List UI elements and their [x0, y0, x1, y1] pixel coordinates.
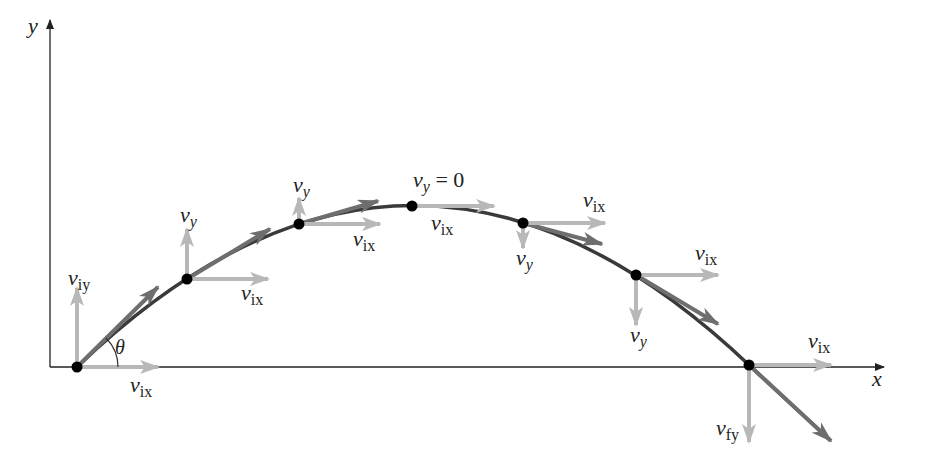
point-p5 [631, 270, 642, 281]
point-p1 [182, 274, 193, 285]
point-p4 [518, 218, 529, 229]
axes: y x [26, 13, 884, 391]
label-vy-p5: vy [630, 322, 648, 351]
label-vix-landing: vix [808, 328, 830, 356]
label-vy-apex: vy = 0 [413, 167, 464, 196]
velocity-vector-p1 [187, 229, 270, 279]
velocity-vectors [77, 201, 831, 441]
velocity-vector-p2 [299, 201, 378, 224]
velocity-vector-p5 [636, 275, 718, 324]
projectile-diagram: y x θ [0, 0, 936, 469]
point-launch [72, 362, 83, 373]
label-vfy-landing: vfy [716, 415, 739, 444]
theta-label: θ [115, 336, 125, 358]
label-vix-p1: vix [241, 280, 263, 308]
label-vix-p5: vix [695, 240, 717, 268]
label-vix-p2: vix [353, 226, 375, 254]
point-apex [407, 201, 418, 212]
x-axis-label: x [871, 366, 882, 391]
label-vy-p1: vy [180, 202, 198, 231]
vertical-components [77, 198, 749, 442]
point-p2 [294, 219, 305, 230]
label-vix-apex: vix [431, 210, 453, 238]
label-vy-p2: vy [293, 172, 311, 201]
label-viy-launch: viy [68, 265, 90, 294]
label-vy-p4: vy [516, 245, 534, 274]
point-landing [744, 360, 755, 371]
velocity-vector-p4 [523, 223, 602, 244]
label-vix-p4: vix [583, 187, 605, 215]
y-axis-label: y [26, 13, 38, 38]
label-vix-launch: vix [130, 372, 152, 400]
horizontal-components [77, 206, 831, 367]
velocity-vector-landing [749, 365, 831, 441]
